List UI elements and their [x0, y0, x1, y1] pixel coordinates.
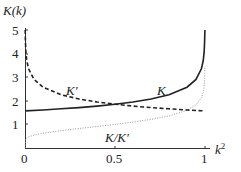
x-axis-label-sup: 2 [221, 141, 226, 151]
x-tick-label-0-5: 0.5 [106, 152, 122, 165]
series-ratio-label: K/K′ [105, 131, 129, 144]
x-tick-label-1: 1 [201, 152, 208, 165]
x-tick-label-0: 0 [21, 152, 28, 165]
x-axis-label: k2 [215, 142, 225, 156]
y-tick-label-1: 1 [12, 118, 19, 131]
series-K-label: K [157, 84, 166, 97]
chart-plot [0, 0, 241, 172]
series-Kp-line [25, 30, 205, 111]
y-axis-label: K(k) [3, 4, 26, 17]
x-ticks [115, 146, 205, 148]
y-tick-label-4: 4 [12, 47, 19, 60]
series-K-line [26, 30, 206, 111]
y-tick-label-5: 5 [12, 24, 19, 37]
y-tick-label-3: 3 [12, 71, 19, 84]
series-Kp-label: K′ [66, 84, 78, 97]
y-tick-label-2: 2 [12, 95, 19, 108]
